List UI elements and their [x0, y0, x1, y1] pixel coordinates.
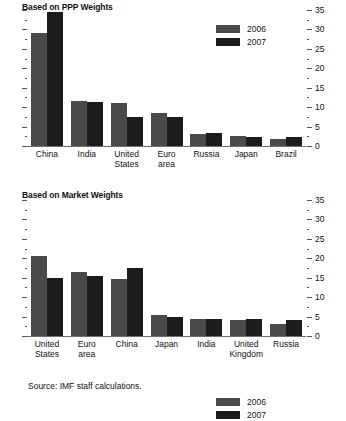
y-axis-tick-label: 15 [315, 273, 324, 282]
y-axis-tick-major [307, 107, 312, 108]
bar-2006 [111, 279, 127, 337]
bar-2007 [286, 137, 302, 146]
legend-label-2007: 2007 [247, 410, 266, 420]
bar-2007 [167, 317, 183, 336]
y-axis-tick-major [22, 336, 27, 337]
y-axis-tick-minor [307, 229, 309, 230]
legend-item-2006: 2006 [216, 395, 302, 408]
bar-group [147, 200, 187, 336]
bar-2007 [127, 117, 143, 146]
bar-2006 [111, 103, 127, 146]
x-axis-category-label: Euroarea [147, 149, 187, 169]
y-axis-tick-label: 30 [315, 215, 324, 224]
legend-item-2007: 2007 [216, 35, 302, 48]
y-axis-tick-label: 0 [315, 142, 320, 151]
bar-group [27, 10, 67, 146]
y-axis-tick-major [307, 336, 312, 337]
x-axis-category-label: UnitedKingdom [226, 339, 266, 359]
plot-area-market: 05101520253035 [27, 200, 306, 336]
y-axis-tick-label: 5 [315, 122, 320, 131]
bar-group [27, 200, 67, 336]
bar-2007 [167, 117, 183, 146]
x-axis-category-label: UnitedStates [107, 149, 147, 169]
y-axis-tick-major [22, 146, 27, 147]
y-axis-tick-minor [307, 287, 309, 288]
y-axis-tick-minor [307, 39, 309, 40]
y-axis-tick-label: 25 [315, 45, 324, 54]
bar-2007 [47, 12, 63, 146]
bar-2007 [206, 133, 222, 146]
bar-2006 [230, 136, 246, 146]
y-axis-tick-minor [307, 20, 309, 21]
legend-market: 2006 2007 [216, 395, 302, 421]
bar-2006 [270, 139, 286, 146]
bar-2007 [246, 137, 262, 146]
bar-2007 [286, 320, 302, 336]
legend-swatch-2007 [216, 411, 240, 419]
y-axis-tick-label: 35 [315, 6, 324, 15]
chart-panel-ppp: Based on PPP Weights 05101520253035 Chin… [0, 0, 346, 182]
legend-swatch-2006 [216, 398, 240, 406]
legend-swatch-2006 [216, 25, 240, 33]
y-axis-tick-label: 35 [315, 196, 324, 205]
y-axis-tick-major [307, 88, 312, 89]
bar-group [186, 200, 226, 336]
x-axis-category-label: Russia [186, 149, 226, 169]
y-axis-tick-label: 10 [315, 293, 324, 302]
x-axis-category-label: China [107, 339, 147, 359]
legend-label-2006: 2006 [247, 24, 266, 34]
bar-2007 [206, 319, 222, 336]
chart-title-market: Based on Market Weights [22, 190, 123, 200]
y-axis-tick-label: 20 [315, 254, 324, 263]
bar-series-group-market [27, 200, 306, 336]
bar-2006 [230, 320, 246, 336]
y-axis-tick-label: 0 [315, 332, 320, 341]
y-axis-tick-label: 25 [315, 235, 324, 244]
bar-2007 [87, 102, 103, 146]
y-axis-tick-major [307, 127, 312, 128]
x-axis-category-label: India [67, 149, 107, 169]
bar-group [67, 200, 107, 336]
y-axis-tick-major [307, 29, 312, 30]
y-axis-tick-label: 5 [315, 312, 320, 321]
y-axis-tick-major [307, 239, 312, 240]
x-axis-category-label: Russia [266, 339, 306, 359]
legend-item-2006: 2006 [216, 22, 302, 35]
y-axis-tick-minor [307, 117, 309, 118]
bar-2007 [47, 278, 63, 336]
bar-2006 [31, 256, 47, 336]
bar-2007 [87, 276, 103, 336]
x-axis-category-label: China [27, 149, 67, 169]
y-axis-tick-label: 10 [315, 103, 324, 112]
legend-label-2006: 2006 [247, 397, 266, 407]
bar-2006 [190, 134, 206, 146]
x-axis-category-label: Japan [226, 149, 266, 169]
x-axis-category-label: Brazil [266, 149, 306, 169]
y-axis-tick-major [307, 317, 312, 318]
y-axis-tick-major [307, 219, 312, 220]
y-axis-tick-major [307, 200, 312, 201]
y-axis-tick-minor [307, 78, 309, 79]
y-axis-tick-minor [307, 326, 309, 327]
source-note: Source: IMF staff calculations. [28, 381, 142, 391]
bar-group [107, 200, 147, 336]
bar-group [226, 200, 266, 336]
bar-2006 [151, 315, 167, 336]
y-axis-tick-minor [307, 210, 309, 211]
y-axis-tick-minor [307, 136, 309, 137]
y-axis-tick-label: 30 [315, 25, 324, 34]
y-axis-tick-label: 15 [315, 83, 324, 92]
x-axis-category-labels-ppp: ChinaIndiaUnitedStatesEuroareaRussiaJapa… [27, 149, 306, 169]
legend-swatch-2007 [216, 38, 240, 46]
bar-2006 [71, 101, 87, 146]
bar-group [67, 10, 107, 146]
y-axis-tick-major [307, 49, 312, 50]
y-axis-tick-minor [307, 268, 309, 269]
bar-group [107, 10, 147, 146]
legend-item-2007: 2007 [216, 408, 302, 421]
y-axis-tick-major [307, 297, 312, 298]
bar-group [266, 200, 306, 336]
bar-2006 [31, 33, 47, 146]
bar-2007 [246, 319, 262, 336]
